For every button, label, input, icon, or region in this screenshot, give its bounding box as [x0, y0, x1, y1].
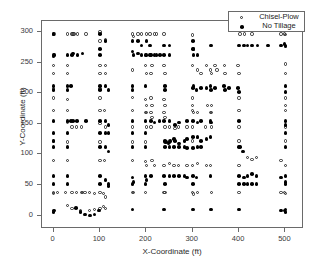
data-point-chisel-plow: [144, 140, 147, 143]
data-point-chisel-plow: [104, 195, 107, 198]
data-point-chisel-plow: [168, 162, 171, 165]
data-point-chisel-plow: [243, 32, 246, 35]
data-point-chisel-plow: [153, 164, 156, 167]
data-point-chisel-plow: [98, 96, 101, 99]
data-point-chisel-plow: [162, 64, 165, 67]
data-point-no-tillage: [237, 182, 241, 186]
data-point-chisel-plow: [150, 64, 153, 67]
data-point-chisel-plow: [210, 72, 213, 75]
legend: Chisel-Plow No Tillage: [228, 11, 305, 32]
data-point-no-tillage: [131, 39, 135, 43]
data-point-chisel-plow: [284, 72, 287, 75]
data-point-no-tillage: [209, 44, 213, 48]
data-point-no-tillage: [52, 32, 56, 36]
data-point-no-tillage: [196, 53, 200, 57]
data-point-chisel-plow: [145, 125, 148, 128]
data-point-chisel-plow: [284, 62, 287, 65]
x-tick-mark: [99, 228, 100, 232]
y-tick-label: 0: [11, 210, 33, 219]
data-point-chisel-plow: [279, 32, 282, 35]
data-point-chisel-plow: [237, 139, 240, 142]
data-point-chisel-plow: [131, 96, 134, 99]
data-point-chisel-plow: [162, 32, 165, 35]
data-point-no-tillage: [66, 174, 70, 178]
data-point-chisel-plow: [66, 140, 69, 143]
y-tick-mark: [37, 153, 41, 154]
data-point-no-tillage: [192, 53, 196, 57]
data-point-chisel-plow: [205, 64, 208, 67]
data-point-chisel-plow: [250, 32, 253, 35]
data-point-no-tillage: [213, 86, 217, 90]
plot-area: [41, 20, 303, 228]
data-point-no-tillage: [131, 176, 135, 180]
data-point-no-tillage: [144, 145, 148, 149]
data-point-no-tillage: [168, 174, 172, 178]
data-point-chisel-plow: [52, 96, 55, 99]
data-point-chisel-plow: [93, 192, 96, 195]
data-point-chisel-plow: [223, 64, 226, 67]
data-point-chisel-plow: [206, 104, 209, 107]
data-point-chisel-plow: [98, 64, 101, 67]
open-circle-marker-icon: [240, 16, 243, 19]
data-point-chisel-plow: [52, 109, 55, 112]
data-point-no-tillage: [52, 139, 56, 143]
data-point-no-tillage: [163, 145, 167, 149]
data-point-chisel-plow: [66, 159, 69, 162]
data-point-chisel-plow: [75, 125, 78, 128]
data-point-no-tillage: [107, 123, 111, 127]
data-point-chisel-plow: [131, 109, 134, 112]
data-point-no-tillage: [131, 84, 135, 88]
data-point-no-tillage: [173, 123, 177, 127]
data-point-no-tillage: [191, 119, 195, 123]
data-point-chisel-plow: [162, 98, 165, 101]
data-point-no-tillage: [66, 88, 70, 92]
data-point-no-tillage: [199, 86, 203, 90]
data-point-no-tillage: [279, 176, 283, 180]
data-point-chisel-plow: [284, 96, 287, 99]
x-tick-label: 100: [84, 234, 114, 243]
data-point-chisel-plow: [145, 111, 148, 114]
data-point-no-tillage: [172, 174, 176, 178]
data-point-no-tillage: [131, 208, 135, 212]
data-point-no-tillage: [209, 121, 213, 125]
data-point-no-tillage: [191, 208, 195, 212]
data-point-chisel-plow: [145, 164, 148, 167]
data-point-no-tillage: [66, 145, 70, 149]
data-point-chisel-plow: [284, 33, 287, 36]
data-point-chisel-plow: [237, 72, 240, 75]
data-point-chisel-plow: [191, 139, 194, 142]
data-point-no-tillage: [149, 174, 153, 178]
data-point-chisel-plow: [132, 191, 135, 194]
data-point-chisel-plow: [56, 191, 59, 194]
data-point-no-tillage: [144, 174, 148, 178]
data-point-chisel-plow: [204, 125, 207, 128]
data-point-chisel-plow: [149, 72, 152, 75]
data-point-chisel-plow: [163, 104, 166, 107]
data-point-no-tillage: [185, 176, 189, 180]
data-point-no-tillage: [162, 208, 166, 212]
data-point-no-tillage: [107, 184, 111, 188]
data-point-no-tillage: [237, 119, 241, 123]
data-point-chisel-plow: [172, 164, 175, 167]
data-point-chisel-plow: [88, 191, 91, 194]
data-point-no-tillage: [98, 119, 102, 123]
data-point-chisel-plow: [155, 32, 158, 35]
data-point-chisel-plow: [284, 109, 287, 112]
data-point-chisel-plow: [191, 96, 194, 99]
data-point-chisel-plow: [103, 109, 106, 112]
data-point-no-tillage: [162, 44, 166, 48]
legend-entry-no-tillage: No Tillage: [229, 22, 304, 31]
scatter-chart: 0100200300400500 050100150200250300 X-Co…: [0, 0, 317, 268]
data-point-no-tillage: [76, 53, 80, 57]
data-point-no-tillage: [237, 174, 241, 178]
data-point-no-tillage: [177, 174, 181, 178]
data-point-chisel-plow: [163, 191, 166, 194]
data-point-chisel-plow: [196, 111, 199, 114]
data-point-no-tillage: [246, 182, 250, 186]
data-point-no-tillage: [83, 213, 87, 217]
data-point-chisel-plow: [66, 64, 69, 67]
data-point-chisel-plow: [284, 164, 287, 167]
data-point-chisel-plow: [150, 104, 153, 107]
data-point-chisel-plow: [210, 125, 213, 128]
data-point-no-tillage: [98, 84, 102, 88]
